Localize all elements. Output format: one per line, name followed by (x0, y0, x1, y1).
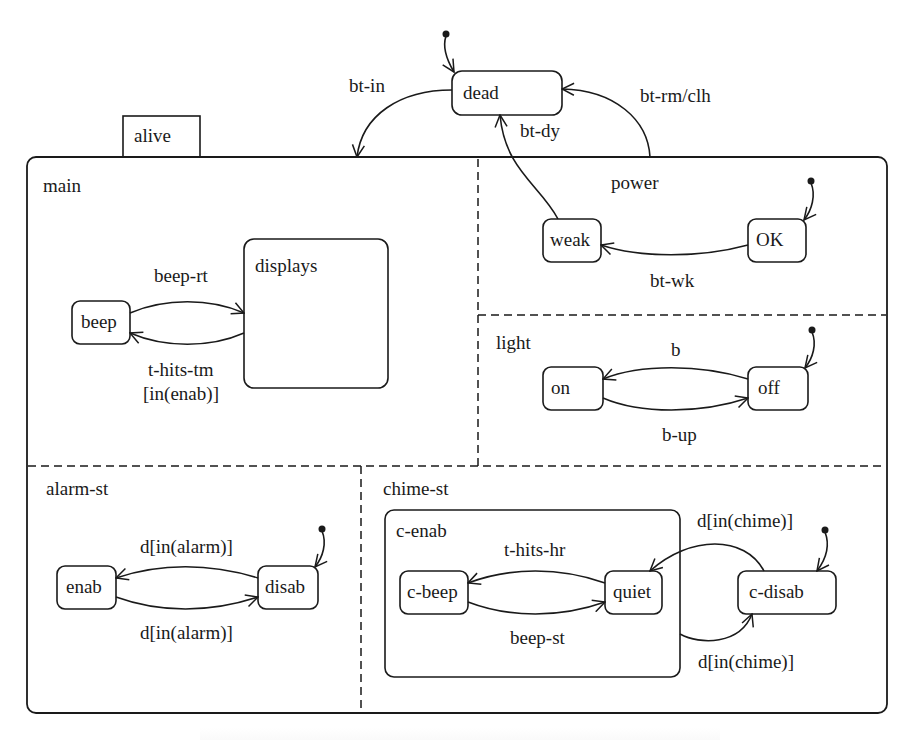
statechart-diagram: alive main power light alarm-st chime-st… (0, 0, 907, 740)
transition-bt-wk (601, 245, 748, 255)
label-beep-rt: beep-rt (154, 265, 209, 286)
svg-text:enab: enab (66, 576, 102, 597)
alive-label: alive (134, 125, 171, 146)
alive-tab: alive (123, 116, 200, 157)
svg-text:disab: disab (265, 576, 305, 597)
state-ok[interactable]: OK (748, 219, 806, 262)
label-b-up: b-up (662, 424, 697, 445)
transition-alarm-bottom (116, 597, 258, 609)
initial-arrow-light (805, 332, 814, 368)
transition-b-up (603, 398, 748, 410)
label-bt-rm-clh: bt-rm/clh (640, 85, 711, 106)
transition-bt-in (357, 90, 452, 157)
state-dead[interactable]: dead (452, 71, 562, 115)
clipped-caption (200, 728, 720, 740)
label-bt-in: bt-in (349, 75, 385, 96)
label-t-hits-tm: t-hits-tm (148, 359, 214, 380)
transition-b (603, 368, 748, 379)
transition-chime-bottom (680, 614, 752, 641)
svg-text:c-beep: c-beep (407, 581, 458, 602)
svg-text:c-disab: c-disab (749, 581, 804, 602)
svg-text:weak: weak (550, 229, 591, 250)
initial-arrow-chime (817, 532, 827, 571)
label-alarm-top: d[in(alarm)] (140, 536, 233, 558)
state-on[interactable]: on (543, 367, 603, 410)
state-weak[interactable]: weak (543, 219, 601, 262)
label-chime-top: d[in(chime)] (697, 510, 793, 532)
svg-text:beep: beep (81, 311, 117, 332)
state-beep[interactable]: beep (72, 301, 130, 344)
label-alarm-bottom: d[in(alarm)] (140, 622, 233, 644)
region-label-chime-st: chime-st (383, 478, 449, 499)
svg-text:c-enab: c-enab (396, 520, 447, 541)
state-displays[interactable]: displays (244, 239, 388, 388)
label-bt-dy: bt-dy (520, 120, 561, 141)
state-c-beep[interactable]: c-beep (400, 571, 468, 614)
state-quiet[interactable]: quiet (605, 571, 662, 614)
initial-arrow-dead (445, 36, 454, 72)
svg-text:on: on (551, 377, 571, 398)
initial-arrow-power (804, 183, 813, 220)
transition-beep-rt (130, 302, 244, 313)
region-label-alarm-st: alarm-st (46, 478, 109, 499)
label-b: b (671, 339, 681, 360)
svg-text:quiet: quiet (613, 581, 652, 602)
state-enab[interactable]: enab (57, 566, 116, 609)
state-off[interactable]: off (748, 367, 808, 410)
svg-text:displays: displays (255, 255, 317, 276)
label-bt-wk: bt-wk (650, 270, 695, 291)
region-label-power: power (611, 172, 659, 193)
svg-text:OK: OK (756, 229, 784, 250)
label-t-hits-tm-guard: [in(enab)] (143, 383, 219, 405)
region-label-main: main (43, 175, 81, 196)
region-label-light: light (496, 332, 532, 353)
transition-bt-rm-clh (562, 89, 650, 157)
state-c-disab[interactable]: c-disab (738, 571, 836, 614)
transition-t-hits-tm (130, 333, 244, 344)
svg-text:off: off (758, 377, 780, 398)
label-t-hits-hr: t-hits-hr (504, 539, 566, 560)
transition-alarm-top (116, 567, 258, 578)
initial-arrow-alarm (315, 531, 324, 567)
label-chime-bottom: d[in(chime)] (698, 651, 794, 673)
state-disab[interactable]: disab (258, 566, 318, 609)
label-beep-st: beep-st (510, 627, 566, 648)
svg-text:dead: dead (463, 82, 499, 103)
